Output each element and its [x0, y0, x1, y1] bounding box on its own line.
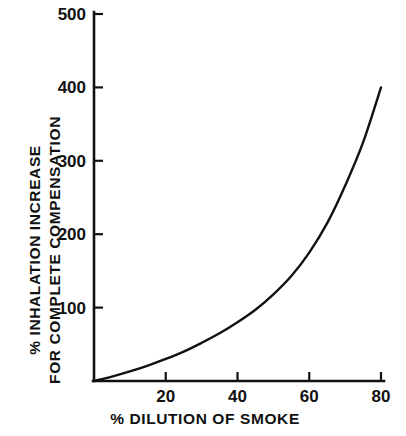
figure-container: 100200300400500 20406080 % INHALATION IN… [0, 0, 406, 436]
line-chart: 100200300400500 20406080 % INHALATION IN… [0, 0, 406, 436]
x-axis-title: % DILUTION OF SMOKE [110, 410, 300, 427]
y-tick-label: 500 [58, 5, 86, 24]
y-tick-label: 400 [58, 78, 86, 97]
y-axis-title-line1: % INHALATION INCREASE [26, 145, 43, 355]
x-tick-label: 60 [300, 387, 319, 406]
y-axis-title-line2: FOR COMPLETE COMPENSATION [46, 116, 63, 384]
x-tick-label: 20 [156, 387, 175, 406]
x-tick-label: 80 [372, 387, 391, 406]
x-tick-label: 40 [228, 387, 247, 406]
